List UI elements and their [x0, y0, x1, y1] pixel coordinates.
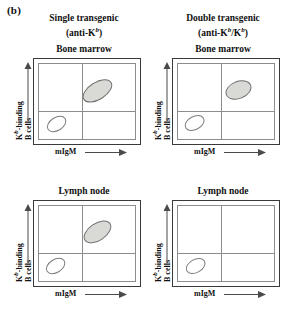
- tissue-title-single-lymph-node: Lymph node: [24, 186, 144, 196]
- x-axis-arrow-double-lymph-node: [224, 290, 266, 299]
- column-heading-double-suffix: ): [245, 28, 248, 38]
- population-blob-open: [182, 112, 207, 134]
- y-axis-sup: b: [151, 272, 159, 276]
- panel-letter: (b): [7, 4, 21, 16]
- y-axis-sup: b: [151, 130, 159, 134]
- column-heading-double-line1: Double transgenic: [160, 12, 286, 24]
- quadrant-divider-vertical: [82, 64, 83, 139]
- column-heading-single-transgenic: Single transgenic (anti-Kb): [24, 12, 144, 39]
- column-heading-single-line2: (anti-Kb): [24, 24, 144, 39]
- figure-panel-b: (b) Single transgenic (anti-Kb) Double t…: [0, 0, 289, 315]
- quadrant-divider-horizontal: [39, 253, 135, 254]
- population-blob-filled: [79, 75, 116, 108]
- population-blob-filled: [223, 77, 255, 104]
- y-axis-prefix: K: [154, 134, 163, 140]
- x-axis-label-single-lymph-node: mIgM: [55, 289, 76, 298]
- population-blob-open: [44, 112, 69, 135]
- tissue-title-double-bone-marrow: Bone marrow: [163, 44, 283, 54]
- x-axis-label-double-bone-marrow: mIgM: [194, 147, 215, 156]
- column-heading-single-line1: Single transgenic: [24, 12, 144, 24]
- quadrant-divider-vertical: [82, 206, 83, 281]
- x-axis-arrow-double-bone-marrow: [224, 148, 266, 157]
- plot-area-single-lymph-node: [38, 205, 136, 282]
- column-heading-double-mid: /K: [231, 28, 241, 38]
- column-heading-double-transgenic: Double transgenic (anti-Kb/Kb): [160, 12, 286, 39]
- quadrant-divider-horizontal: [178, 111, 274, 112]
- x-axis-label-double-lymph-node: mIgM: [194, 289, 215, 298]
- y-axis-prefix: K: [15, 276, 24, 282]
- y-axis-sup: b: [12, 272, 20, 276]
- column-heading-double-line2: (anti-Kb/Kb): [160, 24, 286, 39]
- plot-area-double-lymph-node: [177, 205, 275, 282]
- tissue-title-single-bone-marrow: Bone marrow: [24, 44, 144, 54]
- x-axis-label-single-bone-marrow: mIgM: [55, 147, 76, 156]
- population-blob-open: [183, 254, 208, 276]
- x-axis-arrow-single-bone-marrow: [85, 148, 127, 157]
- y-axis-arrow-single-lymph-node: [23, 204, 33, 262]
- column-heading-single-prefix: (anti-K: [66, 28, 96, 38]
- quadrant-divider-vertical: [221, 64, 222, 139]
- population-blob-open: [43, 254, 68, 277]
- column-heading-double-prefix: (anti-K: [198, 28, 228, 38]
- y-axis-prefix: K: [154, 276, 163, 282]
- plot-area-single-bone-marrow: [38, 63, 136, 140]
- population-blob-filled: [80, 216, 116, 248]
- x-axis-arrow-single-lymph-node: [85, 290, 127, 299]
- quadrant-divider-horizontal: [39, 111, 135, 112]
- y-axis-sup: b: [12, 130, 20, 134]
- plot-area-double-bone-marrow: [177, 63, 275, 140]
- y-axis-prefix: K: [15, 134, 24, 140]
- plot-frame-double-bone-marrow: [172, 58, 280, 145]
- column-heading-single-suffix: ): [99, 28, 102, 38]
- quadrant-divider-horizontal: [178, 253, 274, 254]
- y-axis-arrow-double-bone-marrow: [162, 62, 172, 120]
- plot-frame-single-bone-marrow: [33, 58, 141, 145]
- plot-frame-double-lymph-node: [172, 200, 280, 287]
- tissue-title-double-lymph-node: Lymph node: [163, 186, 283, 196]
- y-axis-arrow-double-lymph-node: [162, 204, 172, 262]
- plot-frame-single-lymph-node: [33, 200, 141, 287]
- y-axis-arrow-single-bone-marrow: [23, 62, 33, 120]
- quadrant-divider-vertical: [221, 206, 222, 281]
